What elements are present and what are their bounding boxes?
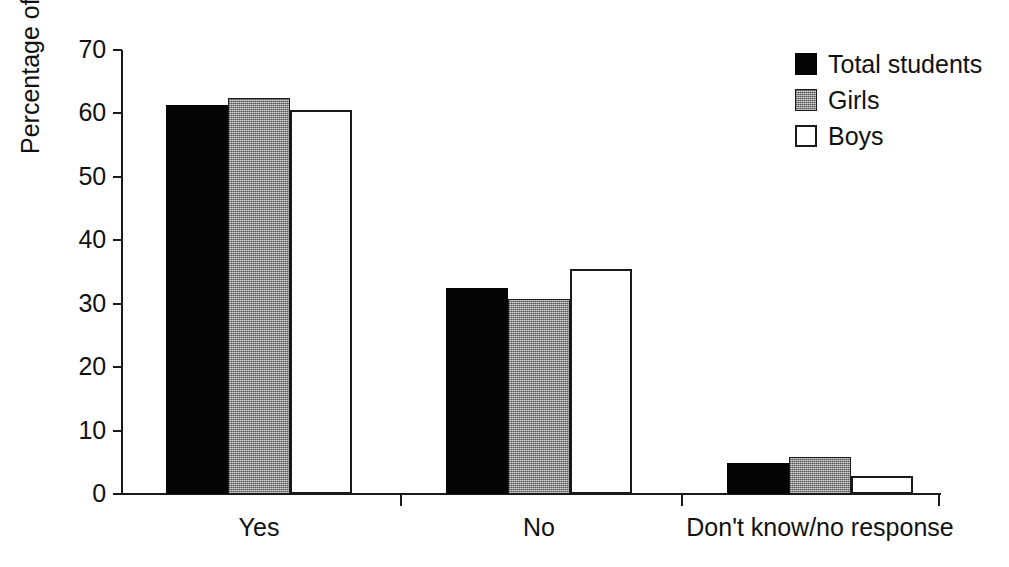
legend-item-total-students: Total students [795, 48, 1005, 80]
y-tick-label: 20 [46, 354, 106, 379]
legend-label-total-students: Total students [828, 50, 982, 78]
y-axis-title: Percentage of respondents [13, 0, 47, 154]
legend-label-boys: Boys [828, 122, 884, 150]
y-tick-label: 40 [46, 227, 106, 252]
bar-chart: Percentage of respondents 70605040302010… [0, 0, 1009, 567]
legend-item-boys: Boys [795, 120, 1005, 152]
x-tick-mark [400, 495, 402, 506]
bar-boys-2 [570, 269, 632, 494]
y-tick-label: 30 [46, 291, 106, 316]
bar-total-students-1 [166, 105, 228, 494]
legend-label-girls: Girls [828, 86, 879, 114]
bar-girls-1 [228, 98, 290, 494]
legend-swatch-total-students-icon [795, 53, 817, 75]
x-tick-mark [938, 495, 940, 506]
legend-swatch-girls-icon [795, 89, 817, 111]
x-tick-mark [681, 495, 683, 506]
y-tick-label: 60 [46, 100, 106, 125]
legend-item-girls: Girls [795, 84, 1005, 116]
x-category-label: Don't know/no response [620, 512, 1009, 542]
y-tick-label: 50 [46, 164, 106, 189]
y-tick-label: 70 [46, 37, 106, 62]
bar-total-students-3 [727, 463, 789, 494]
y-tick-label: 10 [46, 418, 106, 443]
bar-girls-2 [508, 299, 570, 494]
bar-boys-1 [290, 110, 352, 494]
y-tick-label: 0 [46, 481, 106, 506]
bar-girls-3 [789, 457, 851, 494]
chart-legend: Total students Girls Boys [795, 48, 1005, 156]
bar-total-students-2 [446, 288, 508, 494]
legend-swatch-boys-icon [795, 125, 817, 147]
bar-boys-3 [851, 476, 913, 494]
